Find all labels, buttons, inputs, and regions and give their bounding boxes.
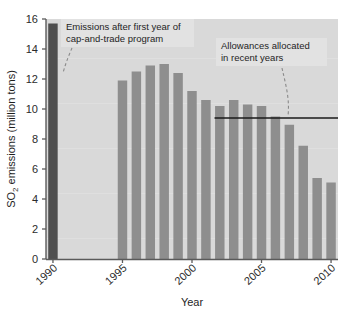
y-tick-label-10: 10 <box>26 103 38 115</box>
y-tick-label-8: 8 <box>32 133 38 145</box>
bar-2009 <box>312 178 321 259</box>
y-tick-label-6: 6 <box>32 163 38 175</box>
chart-figure: 0246810121416 19901995200020052010 SO2 e… <box>0 0 346 315</box>
y-tick-label-4: 4 <box>32 193 38 205</box>
y-tick-label-16: 16 <box>26 13 38 25</box>
chart-svg: 0246810121416 19901995200020052010 SO2 e… <box>0 0 346 315</box>
bar-2008 <box>299 146 308 259</box>
x-tick-label-2010: 2010 <box>311 262 337 287</box>
y-tick-label-2: 2 <box>32 223 38 235</box>
bar-2002 <box>215 106 224 259</box>
bar-1997 <box>146 66 155 260</box>
bar-2003 <box>229 100 238 259</box>
bar-2001 <box>201 100 210 259</box>
y-axis-title: SO2 emissions (million tons) <box>5 70 20 208</box>
bar-1999 <box>173 73 182 259</box>
bar-1996 <box>132 72 141 260</box>
bar-2006 <box>271 117 280 260</box>
annotation-allowances-line1: Allowances allocated <box>221 40 310 51</box>
x-tick-label-1990: 1990 <box>33 262 59 287</box>
x-tick-label-2000: 2000 <box>172 262 198 287</box>
bar-1990 <box>48 24 57 260</box>
x-axis-ticks: 19901995200020052010 <box>33 259 337 287</box>
annotation-cap-and-trade-line1: Emissions after first year of <box>66 21 181 32</box>
y-tick-label-14: 14 <box>26 43 38 55</box>
y-tick-label-0: 0 <box>32 253 38 265</box>
y-axis-ticks: 0246810121416 <box>26 13 46 265</box>
bar-2007 <box>285 125 294 259</box>
annotation-cap-and-trade-line2: cap-and-trade program <box>66 33 163 44</box>
x-axis-title: Year <box>181 296 204 308</box>
bar-2010 <box>326 183 335 260</box>
x-tick-label-1995: 1995 <box>103 262 129 287</box>
bar-1995 <box>118 81 127 260</box>
bar-2004 <box>243 105 252 260</box>
y-tick-label-12: 12 <box>26 73 38 85</box>
x-tick-label-2005: 2005 <box>242 262 268 287</box>
bar-1998 <box>159 64 168 259</box>
bar-2005 <box>257 106 266 259</box>
bar-2000 <box>187 91 196 259</box>
annotation-allowances-line2: in recent years <box>221 52 284 63</box>
